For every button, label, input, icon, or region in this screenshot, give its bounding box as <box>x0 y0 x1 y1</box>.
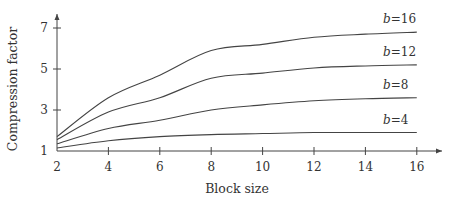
y-axis-arrow-icon <box>55 14 60 20</box>
y-ticks: 1357 <box>40 21 61 158</box>
x-axis-title: Block size <box>205 181 269 196</box>
x-tick-label: 2 <box>53 160 61 174</box>
x-tick-label: 8 <box>207 160 215 174</box>
y-tick-label: 5 <box>40 62 48 76</box>
series-curve-b-4 <box>57 132 417 147</box>
series-label-b-16: b=16 <box>383 12 416 26</box>
series-curves <box>57 32 417 148</box>
series-label-b-8: b=8 <box>383 78 408 92</box>
series-label-b-12: b=12 <box>383 45 416 59</box>
y-tick-label: 1 <box>40 144 48 158</box>
x-tick-label: 14 <box>358 160 374 174</box>
y-tick-label: 3 <box>40 103 48 117</box>
x-tick-label: 16 <box>409 160 424 174</box>
x-tick-label: 12 <box>306 160 321 174</box>
series-labels: b=16b=12b=8b=4 <box>383 12 416 126</box>
x-axis-arrow-icon <box>436 149 442 154</box>
series-curve-b-12 <box>57 65 417 140</box>
series-label-b-4: b=4 <box>383 113 409 127</box>
y-tick-label: 7 <box>40 21 48 35</box>
series-curve-b-16 <box>57 32 417 137</box>
x-tick-label: 6 <box>156 160 164 174</box>
cut-off-caption <box>100 207 452 215</box>
series-curve-b-8 <box>57 98 417 144</box>
compression-factor-chart: 246810121416 1357 b=16b=12b=8b=4 Block s… <box>0 0 452 215</box>
x-tick-label: 10 <box>255 160 270 174</box>
x-tick-label: 4 <box>105 160 113 174</box>
y-axis-title: Compression factor <box>5 27 20 151</box>
